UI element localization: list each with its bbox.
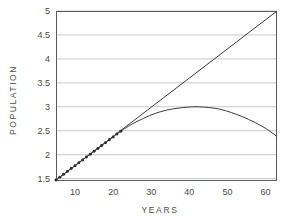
data-series [55, 11, 277, 181]
x-tick-label: 30 [146, 188, 156, 197]
x-tick-label: 50 [222, 188, 232, 197]
y-tick-label: 4.5 [0, 30, 50, 39]
x-tick-label: 20 [108, 188, 118, 197]
x-axis-title: YEARS [142, 206, 179, 215]
population-projection-chart: 1.522.533.544.55 102030405060 POPULATION… [0, 0, 290, 222]
x-tick-label: 40 [184, 188, 194, 197]
x-tick-label: 10 [70, 188, 80, 197]
y-tick-label: 1.5 [0, 174, 50, 183]
y-axis-title: POPULATION [9, 65, 18, 135]
y-tick-label: 5 [0, 7, 50, 16]
y-tick-label: 2 [0, 150, 50, 159]
x-tick-label: 60 [261, 188, 271, 197]
series-line-logistic-saturating-curve [56, 107, 277, 180]
y-tick-label: 4 [0, 54, 50, 63]
